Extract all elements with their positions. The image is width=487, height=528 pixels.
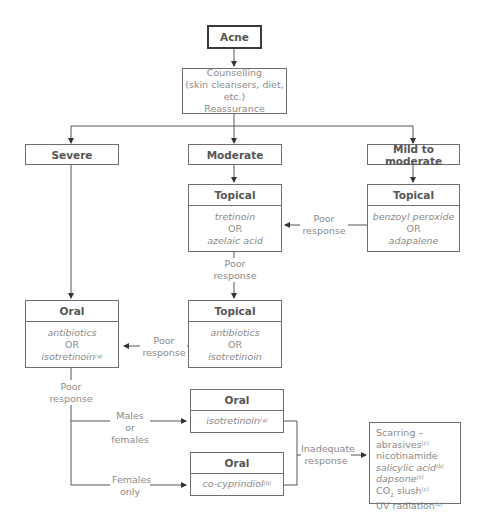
acne-label: Acne: [220, 31, 249, 43]
oral-severe-box: Oral antibiotics OR isotretinoin(a): [25, 300, 119, 368]
oral-isotretinoin-box: Oral isotretinoin(a): [190, 389, 284, 433]
topical-mild-box: Topical benzoyl peroxide OR adapalene: [367, 184, 460, 252]
scarring-item: CO2 slush(c): [376, 485, 454, 500]
or-text: OR: [26, 339, 118, 351]
oral-severe-title: Oral: [26, 301, 118, 322]
counselling-line-1: Counselling: [207, 67, 262, 79]
scarring-item: dapsone(c): [376, 473, 454, 485]
isotretinoin-text: isotretinoin(a): [191, 411, 283, 427]
moderate-box: Moderate: [188, 144, 282, 165]
severe-box: Severe: [25, 144, 119, 165]
oral-cocyprindiol-title: Oral: [191, 453, 283, 474]
poor-response-label-1: Poor response: [301, 213, 347, 237]
topical-moderate-title: Topical: [189, 185, 281, 206]
antibiotics-text: antibiotics: [26, 327, 118, 339]
antibiotics-text: antibiotics: [189, 327, 281, 339]
mild-to-moderate-box: Mild to moderate: [367, 144, 460, 165]
or-text: OR: [189, 223, 281, 235]
isotretinoin-text: isotretinoin: [189, 351, 281, 363]
mild-to-moderate-label: Mild to moderate: [368, 143, 459, 167]
or-text: OR: [368, 223, 459, 235]
scarring-item: UV radiation(b): [376, 500, 454, 512]
azelaic-acid-text: azelaic acid: [189, 235, 281, 247]
oral-isotretinoin-title: Oral: [191, 390, 283, 411]
benzoyl-peroxide-text: benzoyl peroxide: [368, 211, 459, 223]
cocyprindiol-text: co-cyprindiol(b): [191, 474, 283, 490]
males-or-females-label: Males or females: [110, 410, 150, 446]
scarring-item: nicotinamide: [376, 450, 454, 462]
isotretinoin-text: isotretinoin(a): [26, 351, 118, 363]
poor-response-label-2: Poor response: [212, 258, 258, 282]
moderate-label: Moderate: [207, 149, 264, 161]
or-text: OR: [189, 339, 281, 351]
severe-label: Severe: [52, 149, 93, 161]
counselling-line-3: Reassurance: [204, 103, 265, 115]
counselling-line-2: (skin cleansers, diet, etc.): [183, 79, 286, 103]
poor-response-label-4: Poor response: [48, 381, 94, 405]
topical-moderate-box: Topical tretinoin OR azelaic acid: [188, 184, 282, 252]
topical-mild-title: Topical: [368, 185, 459, 206]
inadequate-response-label: Inadequate response: [301, 443, 351, 467]
poor-response-label-3: Poor response: [141, 335, 187, 359]
tretinoin-text: tretinoin: [189, 211, 281, 223]
acne-box: Acne: [207, 25, 262, 49]
oral-cocyprindiol-box: Oral co-cyprindiol(b): [190, 452, 284, 496]
scarring-box: Scarring – abrasives(c) nicotinamide sal…: [369, 422, 461, 504]
females-only-label: Females only: [112, 474, 148, 498]
scarring-item: abrasives(c): [376, 439, 454, 451]
scarring-item: Scarring –: [376, 427, 454, 439]
counselling-box: Counselling (skin cleansers, diet, etc.)…: [182, 68, 287, 114]
scarring-item: salicylic acid(b): [376, 462, 454, 474]
topical-second-box: Topical antibiotics OR isotretinoin: [188, 300, 282, 368]
adapalene-text: adapalene: [368, 235, 459, 247]
topical-second-title: Topical: [189, 301, 281, 322]
